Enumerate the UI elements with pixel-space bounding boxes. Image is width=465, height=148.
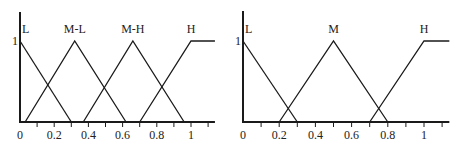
membership-function-m-h xyxy=(83,41,184,122)
membership-function-m xyxy=(279,41,388,122)
set-label-m-l: M-L xyxy=(64,22,86,36)
set-label-l: L xyxy=(245,22,252,36)
x-tick-label: 1 xyxy=(188,128,194,142)
x-tick-label: 1 xyxy=(421,128,427,142)
x-tick-label: 0.2 xyxy=(272,128,287,142)
y-tick-label: 1 xyxy=(235,34,241,48)
set-label-m: M xyxy=(328,22,339,36)
x-tick-label: 0.6 xyxy=(115,128,130,142)
chart-left-svg: 00.20.40.60.811LM-LM-HH xyxy=(0,0,232,148)
set-label-h: H xyxy=(187,22,196,36)
set-label-m-h: M-H xyxy=(121,22,145,36)
set-label-l: L xyxy=(22,22,29,36)
x-tick-label: 0.4 xyxy=(81,128,96,142)
membership-function-h xyxy=(140,41,215,122)
membership-chart-left: 00.20.40.60.811LM-LM-HH xyxy=(0,0,232,148)
y-tick-label: 1 xyxy=(12,34,18,48)
membership-chart-right: 00.20.40.60.811LMH xyxy=(232,0,465,148)
x-tick-label: 0.6 xyxy=(344,128,359,142)
set-label-h: H xyxy=(420,22,429,36)
membership-function-h xyxy=(370,41,450,122)
x-tick-label: 0.8 xyxy=(149,128,164,142)
membership-function-m-l xyxy=(25,41,126,122)
membership-function-l xyxy=(243,41,297,122)
x-tick-label: 0 xyxy=(240,128,246,142)
chart-right-svg: 00.20.40.60.811LMH xyxy=(232,0,465,148)
x-tick-label: 0.8 xyxy=(380,128,395,142)
membership-function-l xyxy=(20,41,71,122)
x-tick-label: 0.2 xyxy=(47,128,62,142)
x-tick-label: 0.4 xyxy=(308,128,323,142)
x-tick-label: 0 xyxy=(17,128,23,142)
